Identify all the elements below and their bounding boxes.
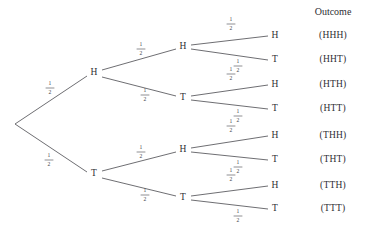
edge-hh-to-hht [191,49,268,60]
fraction-numerator: 1 [237,108,240,114]
node-hhh-level3: H [272,30,279,40]
edge-hh-to-hhh [191,36,268,45]
edge-root-to-t [15,124,87,172]
fraction-label-root-t: 1 2 [45,152,54,167]
fraction-label-tt-tth: 1 2 [227,167,236,182]
outcome-hhh: (HHH) [319,30,347,41]
fraction-numerator: 1 [230,66,233,72]
node-hth-level3: H [272,79,279,89]
fraction-label-h-hh: 1 2 [137,41,146,56]
fraction-denominator: 2 [237,217,240,223]
node-tt-level2: T [180,192,186,202]
outcome-hht: (HHT) [320,54,347,65]
tree-diagram-canvas: 1 2 1 2 1 2 1 2 1 2 1 2 [0,0,369,233]
node-thh-level3: H [272,130,279,140]
fraction-label-root-h: 1 2 [46,80,55,95]
fraction-label-t-th: 1 2 [137,144,146,159]
fraction-denominator: 2 [237,117,240,123]
fraction-denominator: 2 [140,50,143,56]
fraction-denominator: 2 [237,168,240,174]
edge-group-level2 [102,49,176,196]
node-tht-level3: T [272,154,278,164]
fraction-numerator: 1 [48,152,51,158]
fraction-numerator: 1 [237,159,240,165]
fraction-numerator: 1 [144,87,147,93]
fraction-denominator: 2 [49,89,52,95]
fraction-label-hh-hhh: 1 2 [227,16,236,31]
node-t-level1: T [91,168,97,178]
fraction-denominator: 2 [230,176,233,182]
fraction-numerator: 1 [230,167,233,173]
fraction-label-th-tht: 1 2 [234,159,243,174]
node-htt-level3: T [272,103,278,113]
probability-tree-figure: 1 2 1 2 1 2 1 2 1 2 1 2 [0,0,369,233]
edge-h-to-ht [102,77,176,96]
edge-ht-to-hth [191,85,268,96]
outcome-ttt: (TTT) [321,203,346,214]
fraction-numerator: 1 [230,16,233,22]
fraction-denominator: 2 [237,67,240,73]
fraction-denominator: 2 [48,161,51,167]
outcome-htt: (HTT) [320,103,346,114]
fraction-label-th-thh: 1 2 [227,118,236,133]
fraction-label-hh-hht: 1 2 [234,58,243,73]
edge-ht-to-htt [191,100,268,109]
fraction-denominator: 2 [144,196,147,202]
edge-tt-to-ttt [191,200,268,209]
fraction-label-ht-hth: 1 2 [227,66,236,81]
outcome-tht: (THT) [320,154,346,165]
fraction-denominator: 2 [230,25,233,31]
outcome-column-header: Outcome [315,6,352,17]
fraction-label-h-ht: 1 2 [141,87,150,102]
fraction-numerator: 1 [230,118,233,124]
node-h-level1: H [91,67,98,77]
fraction-numerator: 1 [237,208,240,214]
fraction-denominator: 2 [230,127,233,133]
edge-tt-to-tth [191,186,268,196]
fraction-numerator: 1 [237,58,240,64]
fraction-label-ht-htt: 1 2 [234,108,243,123]
node-ht-level2: T [180,92,186,102]
fraction-denominator: 2 [140,153,143,159]
fraction-denominator: 2 [230,75,233,81]
node-ttt-level3: T [272,203,278,213]
outcome-thh: (THH) [320,130,347,141]
node-th-level2: H [180,144,187,154]
outcome-tth: (TTH) [320,180,346,191]
fraction-numerator: 1 [140,144,143,150]
edge-th-to-thh [191,136,268,148]
edge-th-to-tht [191,152,268,160]
node-hht-level3: T [272,54,278,64]
fraction-numerator: 1 [49,80,52,86]
outcome-hth: (HTH) [320,79,347,90]
edge-t-to-tt [102,178,176,196]
fraction-label-tt-ttt: 1 2 [234,208,243,223]
node-tth-level3: H [272,180,279,190]
fraction-numerator: 1 [140,41,143,47]
node-hh-level2: H [180,41,187,51]
fraction-numerator: 1 [144,187,147,193]
fraction-denominator: 2 [144,96,147,102]
